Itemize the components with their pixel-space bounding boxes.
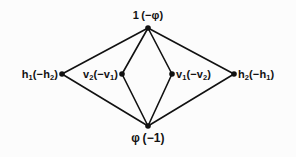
inner-left-vertex	[119, 71, 125, 77]
inner-left-label-paren-open: (−v	[93, 68, 110, 80]
outer-right-label-paren-open: (−h	[249, 68, 266, 80]
bottom-label-paren: (−1)	[143, 131, 165, 145]
outer-left-vertex-label: h1(−h2)	[22, 69, 58, 80]
inner-right-vertex-label: v1(−v2)	[176, 69, 211, 80]
inner-right-label-paren-close: )	[207, 68, 211, 80]
outer-left-label-base-sub: 1	[29, 73, 33, 82]
inner-right-label-base-sub: 1	[182, 73, 186, 82]
bottom-label-base: φ	[131, 131, 140, 145]
outer-right-label-base-sub: 2	[245, 73, 249, 82]
outer-left-label-base: h	[22, 68, 29, 80]
inner-right-vertex	[169, 71, 175, 77]
outer-left-vertex	[59, 71, 65, 77]
outer-left-label-paren-sub: 2	[50, 73, 54, 82]
bottom-vertex-label: φ (−1)	[131, 132, 164, 144]
inner-right-label-paren-sub: 2	[203, 73, 207, 82]
inner-left-label-paren-close: )	[114, 68, 118, 80]
top-label-paren: (−φ)	[141, 9, 163, 21]
outer-left-label-paren-close: )	[54, 68, 58, 80]
outer-right-label-paren-close: )	[271, 68, 275, 80]
outer-right-label-base: h	[238, 68, 245, 80]
edge-outer-right-bottom	[148, 74, 234, 126]
top-vertex	[145, 25, 151, 31]
top-vertex-label: 1 (−φ)	[133, 10, 164, 21]
outer-right-vertex-label: h2(−h1)	[238, 69, 274, 80]
diagram-canvas: 1 (−φ) h1(−h2) v2(−v1) v1(−v2) h2(−h1) φ…	[0, 0, 296, 157]
outer-right-vertex	[231, 71, 237, 77]
inner-left-label-base-sub: 2	[89, 73, 93, 82]
bottom-vertex	[145, 123, 151, 129]
inner-right-label-paren-open: (−v	[187, 68, 204, 80]
outer-right-label-paren-sub: 1	[266, 73, 270, 82]
outer-left-label-paren-open: (−h	[33, 68, 50, 80]
inner-left-vertex-label: v2(−v1)	[83, 69, 118, 80]
inner-left-label-paren-sub: 1	[110, 73, 114, 82]
